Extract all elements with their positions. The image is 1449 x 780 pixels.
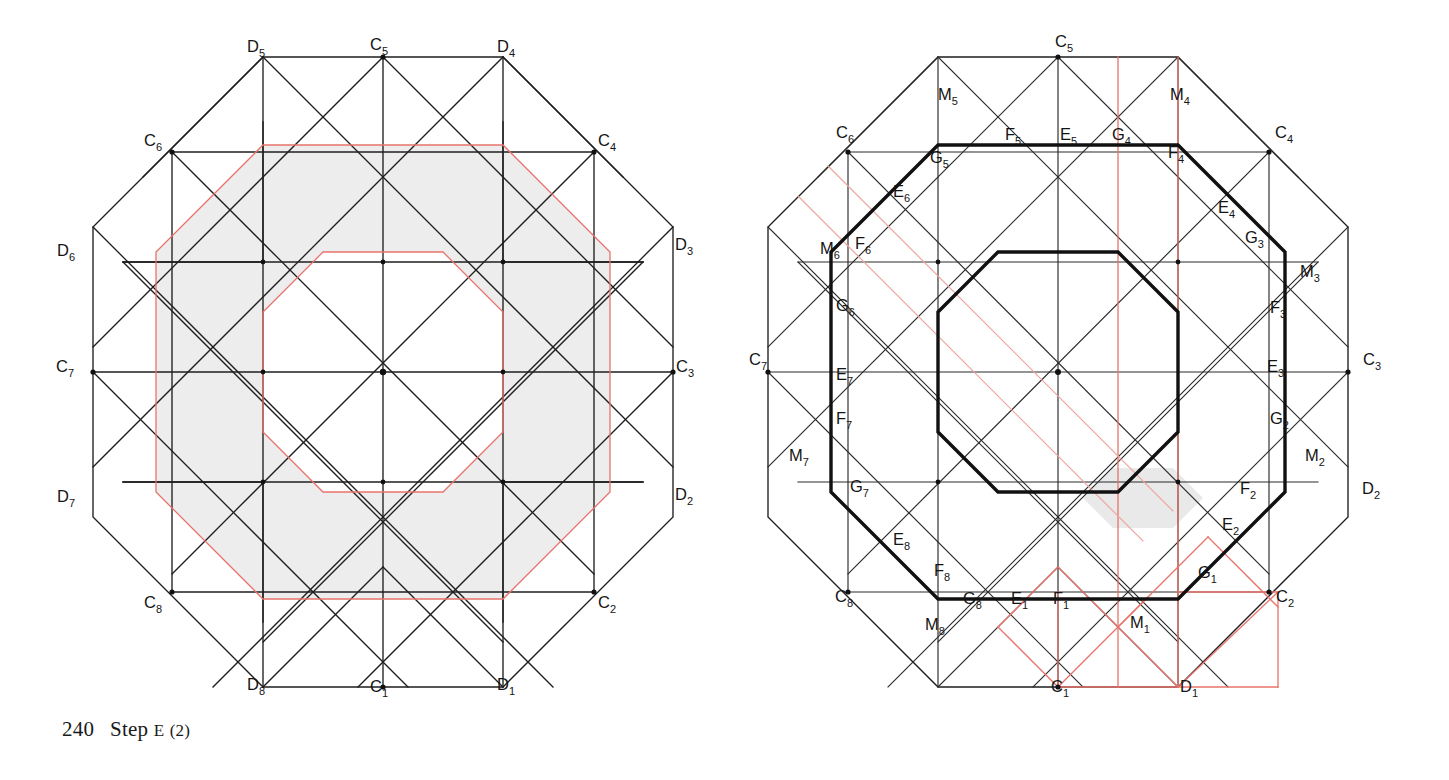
point-label-c7: C7 (56, 357, 74, 379)
shaded-cell-near-d1 (1083, 468, 1203, 528)
point-label-g6: G6 (836, 296, 855, 318)
point-label-e7: E7 (836, 365, 853, 387)
point-label-c1: C1 (370, 677, 388, 699)
point-label-d2: D2 (675, 485, 693, 507)
point-label-e2: E2 (1222, 515, 1239, 537)
point-label-c8: C8 (835, 587, 853, 609)
point-label-c4: C4 (598, 131, 616, 153)
figure-plate-page: D5C5D4C6C4D6D3C7C3D7D2C8C2D8C1D1 240Step… (0, 0, 1449, 780)
point-label-d4: D4 (497, 37, 515, 59)
point-label-f4: F4 (1168, 143, 1184, 165)
point-label-d3: D3 (675, 235, 693, 257)
diagram-step-f: C5M5M4C6C4F5E5G4F4G5E6E4M6F6G3M3G6F3C7E7… (724, 0, 1449, 780)
point-label-c7: C7 (749, 350, 767, 372)
point-label-d5: D5 (247, 37, 265, 59)
point-label-c4: C4 (1275, 123, 1293, 145)
point-label-c6: C6 (144, 131, 162, 153)
point-label-m1: M1 (1130, 613, 1150, 635)
point-label-m5: M5 (938, 85, 958, 107)
point-label-g1: G1 (1198, 563, 1217, 585)
point-label-f8: F8 (934, 561, 950, 583)
point-label-m3: M3 (1300, 262, 1320, 284)
diagram-step-e: D5C5D4C6C4D6D3C7C3D7D2C8C2D8C1D1 (0, 0, 724, 780)
point-label-c8: C8 (144, 593, 162, 615)
point-label-d2: D2 (1362, 479, 1380, 501)
caption-number-left: 240 (62, 717, 94, 741)
point-label-g5: G5 (930, 148, 949, 170)
point-label-c2: C2 (1276, 587, 1294, 609)
point-label-c5: C5 (1055, 32, 1073, 54)
caption-title-left: Step (110, 717, 148, 741)
point-label-c3: C3 (676, 357, 694, 379)
point-label-d1: D1 (1180, 677, 1198, 699)
caption-letter-left: E (154, 721, 165, 740)
point-label-d7: D7 (57, 487, 75, 509)
point-label-c6: C6 (836, 123, 854, 145)
point-label-c3: C3 (1363, 350, 1381, 372)
point-label-m7: M7 (789, 446, 809, 468)
point-label-m4: M4 (1170, 85, 1190, 107)
point-label-m2: M2 (1305, 446, 1325, 468)
point-label-c2: C2 (598, 593, 616, 615)
point-label-e8: E8 (893, 530, 910, 552)
point-label-f7: F7 (836, 409, 852, 431)
caption-step-e: 240Step E (2) (62, 717, 190, 742)
figure-step-f: C5M5M4C6C4F5E5G4F4G5E6E4M6F6G3M3G6F3C7E7… (724, 0, 1449, 780)
caption-qualifier-left: (2) (170, 721, 190, 740)
red-lower-right-construction (998, 537, 1278, 687)
point-label-m8: M8 (925, 615, 945, 637)
point-label-c5: C5 (370, 35, 388, 57)
point-label-e6: E6 (893, 182, 910, 204)
point-label-c1: C1 (1051, 677, 1069, 699)
point-label-g7: G7 (850, 477, 869, 499)
point-label-d6: D6 (57, 241, 75, 263)
figure-step-e: D5C5D4C6C4D6D3C7C3D7D2C8C2D8C1D1 240Step… (0, 0, 724, 780)
